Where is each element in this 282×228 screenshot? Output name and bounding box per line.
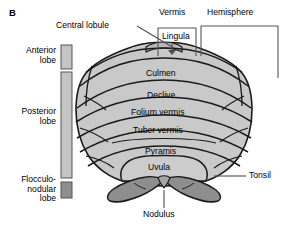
lobe-label-anterior-line2: lobe: [40, 55, 56, 65]
label-central-lobule: Central lobule: [56, 21, 109, 31]
label-declive: Declive: [147, 91, 175, 101]
lobe-label-flocculonodular: Flocculo- nodular lobe: [0, 175, 56, 204]
lobe-bar-posterior: [61, 72, 72, 178]
label-lingula: Lingula: [162, 32, 190, 42]
lobe-bar-flocculonodular: [61, 182, 72, 198]
lobe-label-posterior-line2: lobe: [40, 116, 56, 126]
label-nodulus: Nodulus: [143, 210, 175, 220]
label-uvula: Uvula: [148, 163, 170, 173]
label-vermis: Vermis: [159, 8, 185, 18]
lobe-label-posterior: Posterior lobe: [0, 107, 56, 126]
figure-panel: B: [0, 0, 282, 228]
label-tuber-vermis: Tuber vermis: [133, 126, 183, 136]
label-tonsil: Tonsil: [249, 171, 271, 181]
lobe-label-anterior: Anterior lobe: [4, 46, 56, 65]
label-pyramis: Pyramis: [145, 147, 176, 157]
lobe-label-posterior-line1: Posterior: [22, 106, 56, 116]
lobe-bar-anterior: [61, 45, 72, 69]
label-hemisphere: Hemisphere: [207, 8, 253, 18]
lobe-label-flocculonodular-line3: lobe: [40, 193, 56, 203]
label-culmen: Culmen: [146, 69, 176, 79]
label-folium-vermis: Folium vermis: [131, 108, 184, 118]
lobe-label-anterior-line1: Anterior: [26, 45, 56, 55]
lobe-label-flocculonodular-line2: nodular: [27, 184, 56, 194]
lobe-label-flocculonodular-line1: Flocculo-: [21, 174, 56, 184]
